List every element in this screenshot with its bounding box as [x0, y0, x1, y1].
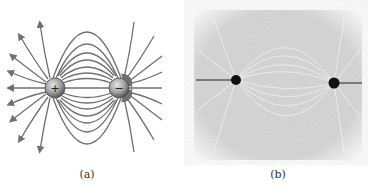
caption-a: (a)	[67, 168, 107, 181]
field-photo	[184, 0, 368, 165]
left-charge-dot	[231, 75, 241, 85]
caption-b: (b)	[258, 168, 298, 181]
svg-text:−: −	[114, 82, 123, 95]
panel-b-field-photo	[184, 0, 368, 165]
panel-a-field-diagram: + −	[0, 0, 184, 165]
right-charge-dot	[329, 78, 340, 89]
negative-charge: −	[109, 78, 129, 98]
positive-charge: +	[45, 78, 65, 98]
svg-text:+: +	[50, 82, 59, 95]
dipole-field-lines: + −	[0, 0, 184, 165]
